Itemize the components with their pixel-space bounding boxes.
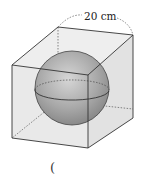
cube-sphere-diagram: 20 cm ( <box>0 0 147 183</box>
dimension-arc <box>58 15 82 27</box>
sphere <box>35 51 109 125</box>
sphere-body <box>35 51 109 125</box>
answer-blank: ( <box>50 160 55 175</box>
dimension-label: 20 cm <box>84 10 117 22</box>
dimension-arc-right <box>117 18 133 35</box>
